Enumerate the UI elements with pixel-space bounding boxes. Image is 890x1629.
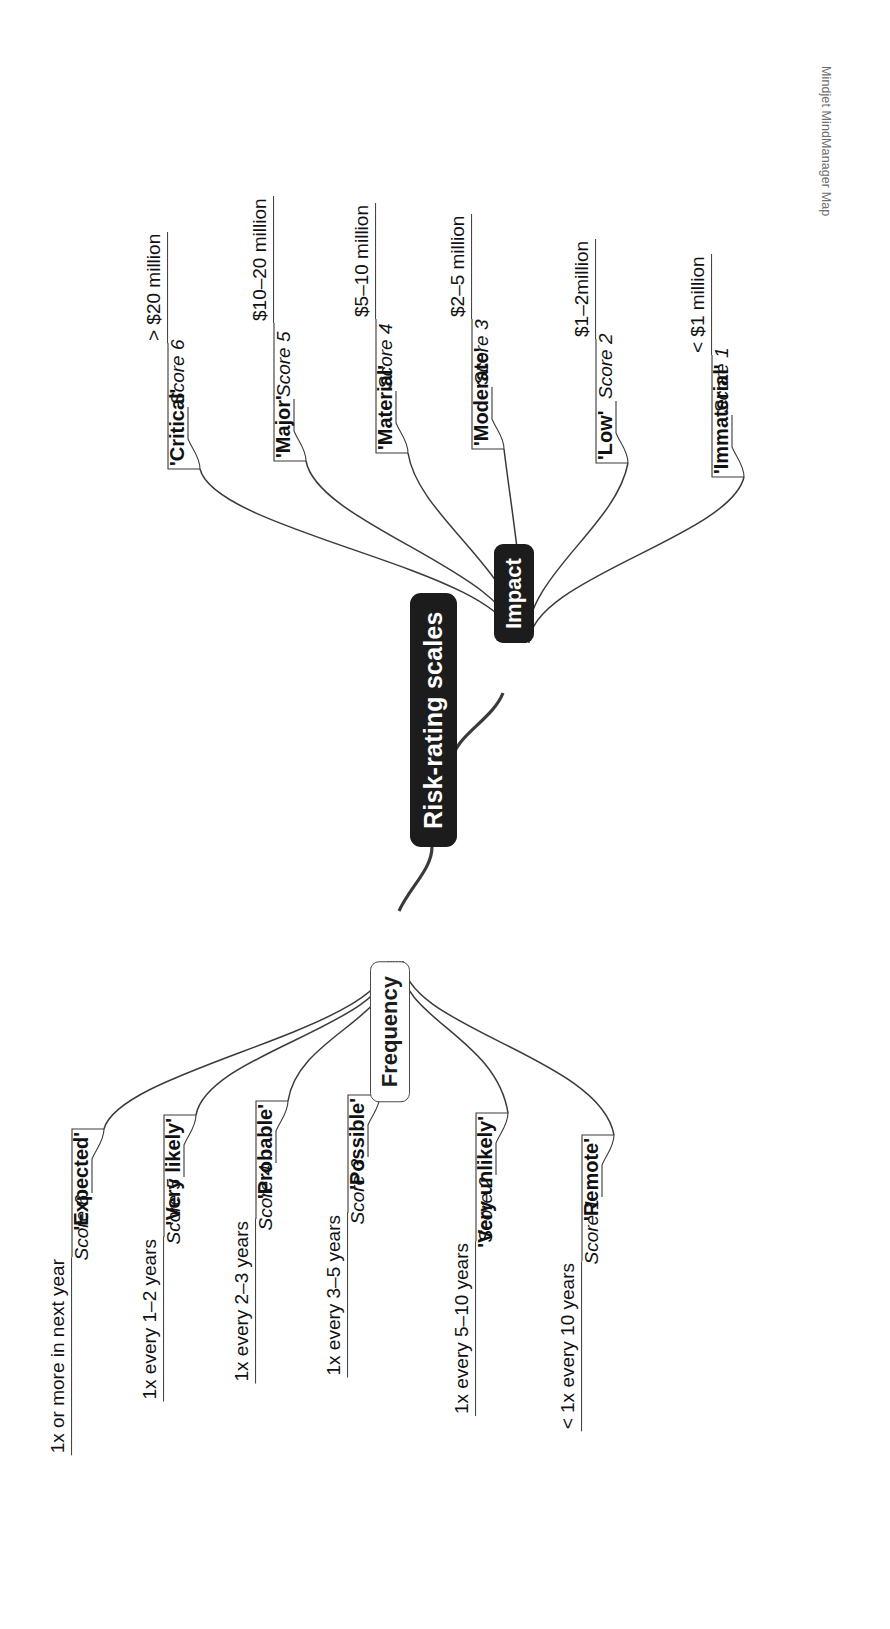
mindmap-canvas: Risk-rating scales Frequency Impact 'Exp… bbox=[0, 0, 890, 1629]
leaf-frequency-very-likely-score[interactable]: Score 5 bbox=[164, 1177, 184, 1246]
watermark-label: Mindjet MindManager Map bbox=[819, 66, 833, 216]
leaf-frequency-remote-score[interactable]: Score 1 bbox=[582, 1197, 602, 1266]
subtopic-impact-major[interactable]: 'Major' bbox=[272, 392, 294, 461]
leaf-impact-low-score[interactable]: Score 2 bbox=[596, 332, 616, 401]
leaf-impact-material-score[interactable]: Score 4 bbox=[376, 322, 396, 391]
leaf-impact-major-detail[interactable]: $10–20 million bbox=[250, 196, 274, 323]
leaf-frequency-very-unlikely-score[interactable]: Score 2 bbox=[476, 1175, 496, 1244]
link-central-frequency bbox=[399, 847, 432, 911]
leaf-impact-low-detail[interactable]: $1–2million bbox=[572, 239, 596, 339]
leaf-impact-critical-detail[interactable]: > $20 million bbox=[144, 232, 168, 343]
impact-leaf-links bbox=[168, 319, 744, 477]
link-central-impact bbox=[452, 693, 503, 763]
leaf-frequency-remote-detail[interactable]: < 1x every 10 years bbox=[558, 1261, 582, 1431]
leaf-impact-material-detail[interactable]: $5–10 million bbox=[352, 203, 376, 319]
leaf-impact-immaterial-detail[interactable]: < $1 million bbox=[688, 254, 712, 355]
main-branch-frequency[interactable]: Frequency bbox=[370, 961, 410, 1102]
leaf-frequency-very-likely-detail[interactable]: 1x every 1–2 years bbox=[140, 1237, 164, 1402]
leaf-impact-critical-score[interactable]: Score 6 bbox=[168, 338, 188, 407]
leaf-frequency-very-unlikely-detail[interactable]: 1x every 5–10 years bbox=[452, 1241, 476, 1416]
leaf-frequency-possible-score[interactable]: Score 3 bbox=[348, 1157, 368, 1226]
leaf-frequency-expected-score[interactable]: Score 6 bbox=[72, 1193, 92, 1262]
subtopic-impact-low[interactable]: 'Low' bbox=[594, 407, 616, 463]
impact-links bbox=[200, 449, 744, 643]
central-topic[interactable]: Risk-rating scales bbox=[410, 593, 457, 847]
leaf-frequency-probable-detail[interactable]: 1x every 2–3 years bbox=[232, 1219, 256, 1384]
leaf-frequency-probable-score[interactable]: Score 4 bbox=[256, 1163, 276, 1232]
leaf-impact-immaterial-score[interactable]: Score 1 bbox=[712, 346, 732, 415]
main-branch-impact[interactable]: Impact bbox=[494, 544, 534, 643]
leaf-impact-major-score[interactable]: Score 5 bbox=[274, 330, 294, 399]
leaf-frequency-possible-detail[interactable]: 1x every 3–5 years bbox=[324, 1213, 348, 1378]
leaf-frequency-expected-detail[interactable]: 1x or more in next year bbox=[48, 1257, 72, 1455]
leaf-impact-moderate-score[interactable]: Score 3 bbox=[472, 318, 492, 387]
leaf-impact-moderate-detail[interactable]: $2–5 million bbox=[448, 214, 472, 319]
